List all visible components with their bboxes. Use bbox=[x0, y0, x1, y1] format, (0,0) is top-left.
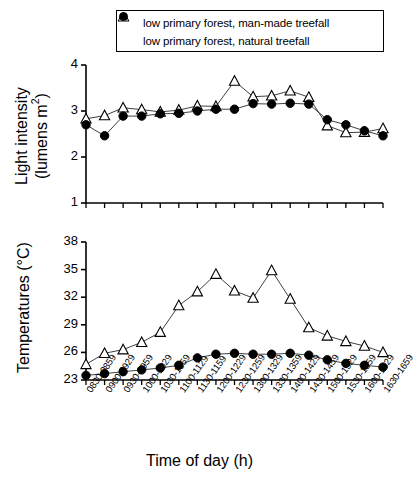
x-axis-title: Time of day (h) bbox=[0, 452, 399, 470]
data-point-triangle bbox=[285, 294, 295, 304]
data-point-circle bbox=[360, 127, 368, 135]
data-point-circle bbox=[305, 100, 313, 108]
data-point-circle bbox=[267, 100, 275, 108]
data-point-circle bbox=[82, 371, 90, 379]
y-tick-label: 32 bbox=[64, 288, 78, 303]
y-tick-label: 1 bbox=[71, 194, 78, 209]
y-tick-label: 38 bbox=[64, 233, 78, 248]
data-point-triangle bbox=[99, 110, 109, 120]
y-tick-label: 3 bbox=[71, 102, 78, 117]
chart-light-intensity bbox=[81, 65, 388, 208]
data-point-circle bbox=[212, 105, 220, 113]
data-point-circle bbox=[119, 112, 127, 120]
data-point-triangle bbox=[322, 330, 332, 340]
data-point-circle bbox=[175, 109, 183, 117]
data-point-triangle bbox=[81, 359, 91, 369]
data-point-triangle bbox=[174, 300, 184, 310]
data-point-circle bbox=[342, 121, 350, 129]
data-point-circle bbox=[323, 116, 331, 124]
data-point-circle bbox=[156, 110, 164, 118]
data-point-triangle bbox=[137, 337, 147, 347]
y-tick-label: 4 bbox=[71, 56, 78, 71]
data-point-circle bbox=[379, 132, 387, 140]
data-point-triangle bbox=[118, 102, 128, 112]
data-point-triangle bbox=[341, 336, 351, 346]
data-point-circle bbox=[193, 107, 201, 115]
y-tick-label: 29 bbox=[64, 316, 78, 331]
data-point-triangle bbox=[229, 285, 239, 295]
data-point-circle bbox=[286, 99, 294, 107]
data-point-circle bbox=[230, 105, 238, 113]
y-tick-label: 2 bbox=[71, 148, 78, 163]
y-tick-label: 35 bbox=[64, 261, 78, 276]
data-point-circle bbox=[249, 99, 257, 107]
data-point-circle bbox=[82, 121, 90, 129]
data-point-triangle bbox=[211, 269, 221, 279]
data-point-triangle bbox=[285, 85, 295, 95]
data-point-triangle bbox=[229, 76, 239, 86]
data-point-circle bbox=[100, 132, 108, 140]
data-point-circle bbox=[138, 112, 146, 120]
y-tick-label: 23 bbox=[64, 371, 78, 386]
data-point-triangle bbox=[304, 322, 314, 332]
data-point-triangle bbox=[267, 265, 277, 275]
y-tick-label: 26 bbox=[64, 343, 78, 358]
data-point-triangle bbox=[248, 293, 258, 303]
data-point-triangle bbox=[155, 327, 165, 337]
